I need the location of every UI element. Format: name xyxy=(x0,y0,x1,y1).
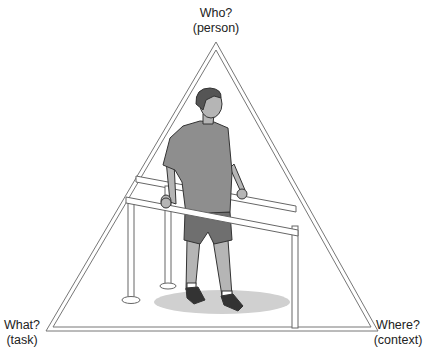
who-aspect: (person) xyxy=(186,21,246,36)
who-question: Who? xyxy=(186,6,246,21)
triangle-diagram xyxy=(0,0,424,356)
what-aspect: (task) xyxy=(0,333,44,348)
label-what-task: What? (task) xyxy=(0,318,44,348)
what-question: What? xyxy=(0,318,44,333)
label-who-person: Who? (person) xyxy=(186,6,246,36)
hand xyxy=(161,198,171,208)
label-where-context: Where? (context) xyxy=(370,318,424,348)
where-aspect: (context) xyxy=(370,333,424,348)
where-question: Where? xyxy=(370,318,424,333)
